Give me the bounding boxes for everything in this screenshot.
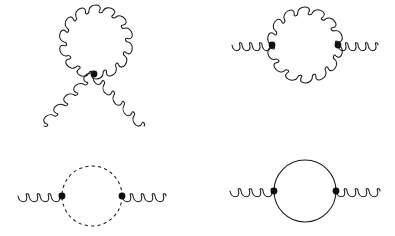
vertex-dot-quark-gluon — [271, 188, 278, 195]
vertex-dot-three-gluon — [269, 42, 276, 49]
vertex-dot-gluon-ghost — [59, 193, 66, 200]
vertex-dot-four-gluon — [91, 71, 98, 78]
diagram-canvas — [0, 0, 395, 236]
vertex-dot-quark-gluon — [333, 188, 340, 195]
vertex-dot-gluon-ghost — [119, 193, 126, 200]
feynman-diagram-figure — [0, 0, 395, 236]
vertex-dot-three-gluon — [335, 42, 342, 49]
